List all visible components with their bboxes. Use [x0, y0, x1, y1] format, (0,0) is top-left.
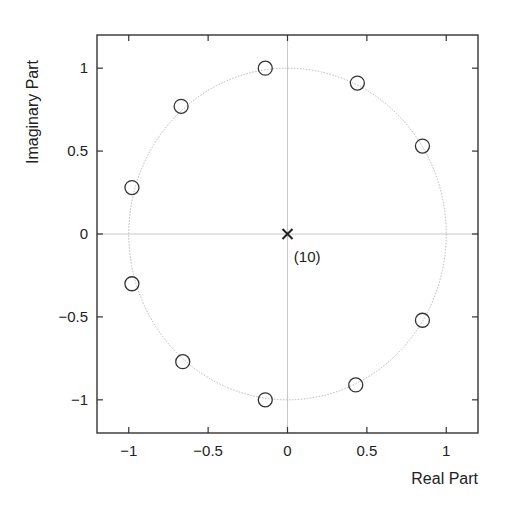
- y-tick-label: 0.5: [67, 142, 88, 159]
- zero-marker: [349, 378, 363, 392]
- y-tick-label: 1: [80, 59, 88, 76]
- x-tick-label: −0.5: [193, 442, 223, 459]
- y-tick-label: −1: [71, 391, 88, 408]
- x-tick-label: 0.5: [356, 442, 377, 459]
- y-tick-label: −0.5: [58, 308, 88, 325]
- plot-area: −1−0.500.51−1−0.500.51(10): [58, 35, 478, 459]
- y-axis-label: Imaginary Part: [24, 59, 41, 164]
- x-tick-label: 0: [283, 442, 291, 459]
- pole-zero-chart: −1−0.500.51−1−0.500.51(10) Imaginary Par…: [0, 0, 509, 508]
- x-tick-label: −1: [120, 442, 137, 459]
- zero-marker: [174, 99, 188, 113]
- zero-marker: [258, 61, 272, 75]
- zero-marker: [125, 181, 139, 195]
- x-axis-label: Real Part: [411, 470, 478, 487]
- pole-multiplicity-label: (10): [294, 248, 321, 265]
- zero-marker: [176, 355, 190, 369]
- zero-marker: [258, 393, 272, 407]
- y-tick-label: 0: [80, 225, 88, 242]
- zero-marker: [125, 277, 139, 291]
- x-tick-label: 1: [442, 442, 450, 459]
- zero-marker: [415, 313, 429, 327]
